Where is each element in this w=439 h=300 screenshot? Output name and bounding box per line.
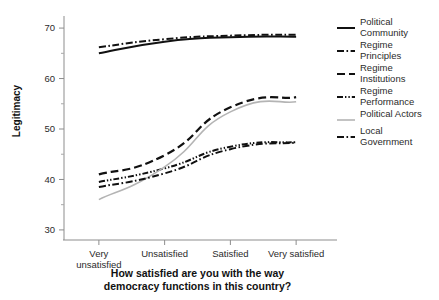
y-tick-label: 60 [44,73,55,84]
y-tick-label: 70 [44,22,55,33]
legend-label-0: Community [360,27,408,38]
series-group [99,35,296,200]
legend-label-3: Performance [360,96,414,107]
legend-label-1: Regime [360,39,393,50]
x-axis-title-line: How satisfied are you with the way [111,267,284,279]
x-tick-label: Very satisfied [268,248,325,259]
legend: PoliticalCommunityRegimePrinciplesRegime… [337,16,422,147]
legend-label-5: Local [360,125,383,136]
y-axis-title: Legitimacy [11,84,22,137]
legend-label-2: Regime [360,62,393,73]
legend-label-4: Political Actors [360,108,422,119]
y-tick-group: 3040506070 [44,22,64,235]
x-axis-title-line: democracy functions in this country? [104,280,291,292]
y-tick-label: 50 [44,123,55,134]
legend-label-0: Political [360,16,393,27]
series-line-5 [99,143,296,187]
legend-label-5: Government [360,136,413,147]
series-line-0 [99,36,296,53]
x-tick-group: VeryunsatisfiedUnsatisfiedSatisfiedVery … [76,240,324,270]
x-tick-label: Very [89,248,108,259]
legend-label-2: Institutions [360,73,406,84]
legend-label-1: Principles [360,50,401,61]
x-axis-title: How satisfied are you with the waydemocr… [104,267,291,292]
y-tick-label: 40 [44,174,55,185]
legitimacy-line-chart: 3040506070LegitimacyVeryunsatisfiedUnsat… [0,0,439,300]
series-line-4 [99,101,296,200]
y-tick-label: 30 [44,224,55,235]
x-tick-label: Unsatisfied [141,248,188,259]
legend-label-3: Regime [360,85,393,96]
chart-canvas: 3040506070LegitimacyVeryunsatisfiedUnsat… [0,0,439,300]
series-line-3 [99,142,296,182]
x-tick-label: Satisfied [212,248,248,259]
